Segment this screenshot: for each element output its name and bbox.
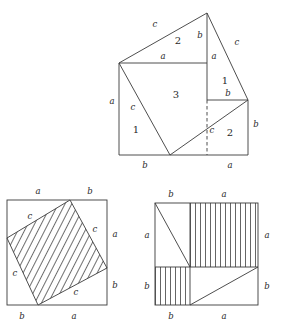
- label-center-three: 3: [173, 89, 179, 100]
- label-br-top-a: a: [221, 189, 226, 199]
- label-bl-top-a: a: [35, 186, 40, 196]
- label-inner-a-right: a: [211, 51, 216, 61]
- label-br-right-b: b: [264, 281, 269, 291]
- label-piece-one-left: 1: [133, 124, 139, 135]
- label-br-bottom-a: a: [221, 311, 226, 321]
- label-bl-c-upper-right: c: [93, 224, 98, 234]
- label-inner-c: c: [131, 102, 136, 112]
- geometry-diagram: c 2 b c a a 1 a c 3 1 b c 2 b b a a b a …: [0, 0, 282, 332]
- label-bl-right-a: a: [112, 229, 117, 239]
- label-left-a: a: [109, 96, 114, 106]
- label-br-right-a: a: [264, 230, 269, 240]
- label-lower-two: 2: [227, 127, 233, 138]
- label-piece-one-right: 1: [222, 75, 228, 86]
- label-bl-c-lower-left: c: [13, 268, 18, 278]
- label-bl-bottom-a: a: [71, 311, 76, 321]
- a-square-fill: [190, 203, 258, 267]
- label-bl-bottom-b: b: [19, 311, 24, 321]
- bottom-right-figure: b a a b a b b a: [144, 189, 269, 321]
- b-square-fill: [155, 267, 190, 305]
- top-dissection-figure: c 2 b c a a 1 a c 3 1 b c 2 b b a: [109, 13, 258, 170]
- label-bl-c-upper-left: c: [28, 211, 33, 221]
- label-br-top-b: b: [168, 189, 173, 199]
- upper-triangle-hypotenuse: [155, 203, 190, 267]
- label-br-left-b: b: [144, 281, 149, 291]
- label-upper-left-c: c: [153, 19, 158, 29]
- label-bottom-a: a: [227, 160, 232, 170]
- left-hypotenuse-cut: [119, 63, 170, 155]
- label-bl-top-b: b: [87, 186, 92, 196]
- label-bottom-b: b: [142, 160, 147, 170]
- tilted-square-fill: [7, 200, 107, 305]
- label-br-bottom-b: b: [168, 311, 173, 321]
- label-lower-c: c: [210, 125, 215, 135]
- label-apex-b: b: [197, 30, 202, 40]
- lower-triangle-hypotenuse: [190, 267, 258, 305]
- label-bl-right-b: b: [112, 280, 117, 290]
- bottom-left-figure: a b a b b a c c c c: [7, 186, 118, 321]
- label-br-left-a: a: [144, 230, 149, 240]
- label-inner-a-top: a: [160, 51, 165, 61]
- label-bl-c-lower-right: c: [74, 287, 79, 297]
- label-right-b-upper: b: [225, 88, 230, 98]
- label-piece-two-upper: 2: [175, 35, 181, 46]
- pythagorean-figure-root: c 2 b c a a 1 a c 3 1 b c 2 b b a a b a …: [0, 0, 282, 332]
- label-upper-right-c: c: [235, 37, 240, 47]
- label-right-b-lower: b: [253, 119, 258, 129]
